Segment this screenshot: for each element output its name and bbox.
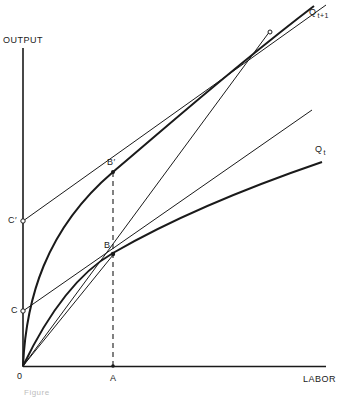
point-c-prime-marker: [21, 219, 25, 223]
figure-caption: Figure: [24, 389, 50, 397]
curve-label-q-t: Qt: [315, 145, 326, 154]
curve-label-q-t-subscript: t: [324, 149, 326, 156]
point-b-prime-marker: [111, 170, 115, 174]
tangent-line-c-b: [23, 110, 312, 311]
intersection-marker: [268, 30, 272, 34]
point-c-label: C: [11, 306, 18, 315]
point-b-marker: [111, 252, 115, 256]
point-c-marker: [21, 309, 25, 313]
point-c-prime-label: C′: [8, 216, 17, 225]
curve-q-t: [23, 162, 322, 366]
curve-label-q-t-plus-1-subscript: t+1: [318, 12, 329, 19]
curve-label-q-t-plus-1-base: Q: [309, 7, 317, 17]
ray-origin-through-b: [23, 31, 270, 366]
origin-label: 0: [17, 372, 23, 381]
point-b-label: B: [104, 241, 111, 250]
curve-label-q-t-plus-1: Qt+1: [309, 8, 329, 17]
production-diagram: [0, 0, 340, 398]
point-a-label: A: [110, 374, 117, 383]
tangent-line-c-prime: [23, 5, 326, 221]
point-a-marker: [111, 364, 115, 368]
curve-label-q-t-base: Q: [315, 144, 323, 154]
y-axis-label: OUTPUT: [3, 36, 43, 45]
point-b-prime-label: B′: [107, 158, 116, 167]
ray-origin-lower: [23, 255, 113, 366]
x-axis-label: LABOR: [303, 375, 336, 384]
